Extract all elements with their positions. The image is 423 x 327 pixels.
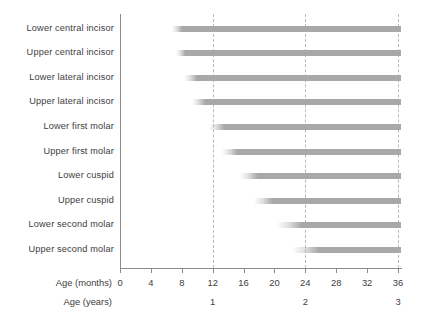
bar	[176, 50, 401, 56]
category-label: Upper lateral incisor	[0, 98, 114, 107]
x-tick-label-months: 0	[117, 278, 122, 287]
bar	[184, 75, 401, 81]
category-label: Upper central incisor	[0, 48, 114, 57]
bar	[240, 173, 401, 179]
x-tick-16	[244, 268, 245, 273]
category-label: Upper second molar	[0, 245, 114, 254]
bar	[222, 149, 401, 155]
category-label: Lower second molar	[0, 221, 114, 230]
bar	[277, 222, 401, 228]
x-tick-label-months: 12	[207, 278, 217, 287]
x-tick-4	[151, 268, 152, 273]
bar	[192, 99, 401, 105]
category-label: Lower first molar	[0, 122, 114, 131]
bar	[292, 247, 401, 253]
category-label: Upper cuspid	[0, 196, 114, 205]
x-tick-label-years: 3	[395, 297, 400, 306]
x-tick-label-months: 4	[148, 278, 153, 287]
x-tick-label-years: 2	[303, 297, 308, 306]
x-tick-12	[213, 268, 214, 273]
plot-area	[120, 14, 404, 268]
x-tick-label-months: 32	[362, 278, 372, 287]
y-axis-line	[120, 14, 121, 268]
x-tick-20	[274, 268, 275, 273]
category-label: Lower lateral incisor	[0, 73, 114, 82]
x-tick-label-years: 1	[210, 297, 215, 306]
x-axis-title-months: Age (months)	[56, 278, 112, 287]
x-tick-label-months: 16	[238, 278, 248, 287]
category-label: Upper first molar	[0, 147, 114, 156]
x-tick-0	[120, 268, 121, 273]
category-label: Lower cuspid	[0, 171, 114, 180]
category-label: Lower central incisor	[0, 24, 114, 33]
x-tick-24	[305, 268, 306, 273]
x-tick-label-months: 8	[179, 278, 184, 287]
bar	[209, 124, 401, 130]
eruption-chart: Lower central incisorUpper central incis…	[0, 0, 423, 327]
bar	[172, 26, 401, 32]
x-tick-8	[182, 268, 183, 273]
x-axis-title-years: Age (years)	[64, 297, 112, 306]
bar	[254, 198, 401, 204]
x-tick-36	[398, 268, 399, 273]
x-tick-label-months: 24	[300, 278, 310, 287]
x-tick-label-months: 36	[393, 278, 403, 287]
x-tick-32	[367, 268, 368, 273]
x-tick-label-months: 20	[269, 278, 279, 287]
x-axis-line	[120, 268, 402, 269]
x-tick-28	[336, 268, 337, 273]
x-tick-label-months: 28	[331, 278, 341, 287]
